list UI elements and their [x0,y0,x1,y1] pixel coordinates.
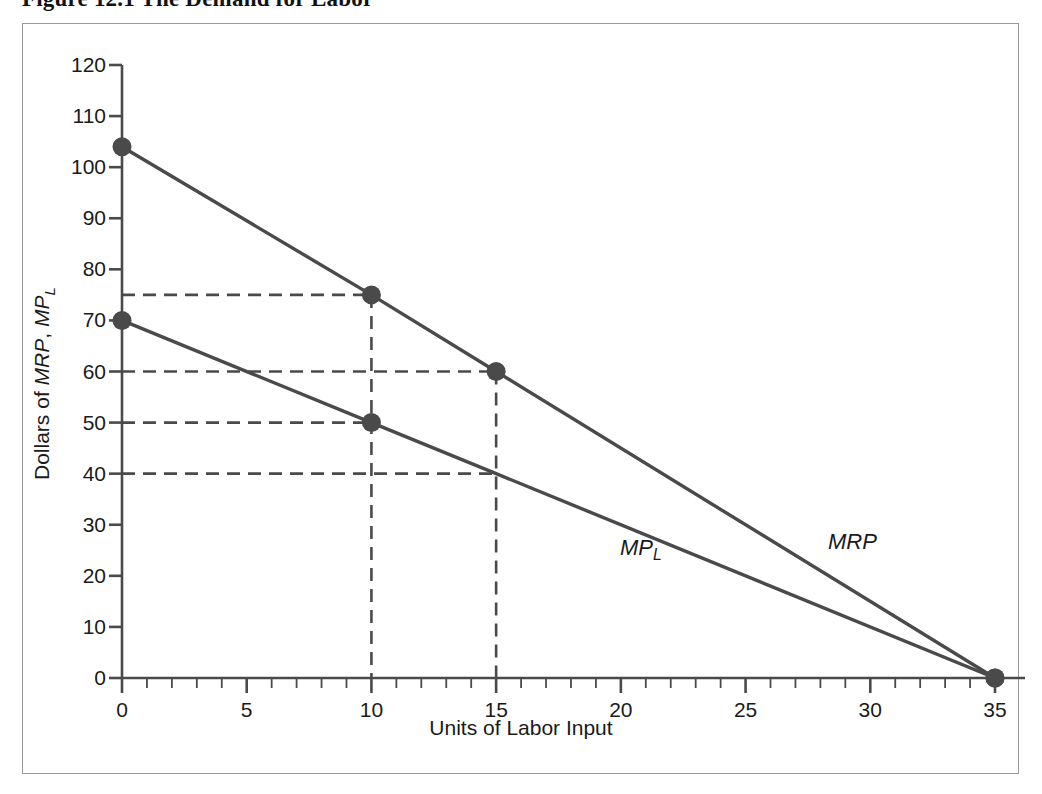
curve-MP_L [122,320,995,678]
x-tick-label-35: 35 [983,698,1006,722]
x-tick-label-5: 5 [241,698,253,722]
data-point-MRP-0 [113,137,132,156]
data-point-MP_L-35 [986,669,1005,688]
y-tick-label-40: 40 [40,462,106,486]
chart-svg [0,0,1042,794]
x-tick-label-15: 15 [484,698,507,722]
curve-label-mpl-subscript: L [653,546,662,563]
curve-label-mpl: MPL [620,535,662,564]
y-tick-label-0: 0 [40,666,106,690]
y-tick-label-90: 90 [40,206,106,230]
data-point-MRP-15 [487,362,506,381]
x-tick-label-0: 0 [116,698,128,722]
x-tick-label-25: 25 [734,698,757,722]
y-tick-label-110: 110 [40,104,106,128]
x-tick-label-10: 10 [360,698,383,722]
y-tick-label-30: 30 [40,513,106,537]
curve-MRP [122,147,995,678]
y-tick-label-50: 50 [40,411,106,435]
y-tick-label-120: 120 [40,53,106,77]
data-point-MP_L-0 [113,311,132,330]
y-tick-label-80: 80 [40,257,106,281]
y-tick-label-100: 100 [40,155,106,179]
y-tick-label-10: 10 [40,615,106,639]
y-tick-label-70: 70 [40,308,106,332]
y-tick-label-60: 60 [40,360,106,384]
data-point-MRP-10 [362,285,381,304]
chart-plot-area: Dollars of MRP, MPL Units of Labor Input… [0,0,1042,794]
y-tick-label-20: 20 [40,564,106,588]
curve-label-mrp: MRP [828,529,877,555]
x-axis-title: Units of Labor Input [0,716,1042,740]
y-axis-title-mp-subscript: L [41,287,58,295]
curve-label-mpl-text: MP [620,535,653,560]
data-point-MP_L-10 [362,413,381,432]
x-tick-label-20: 20 [609,698,632,722]
x-tick-label-30: 30 [859,698,882,722]
